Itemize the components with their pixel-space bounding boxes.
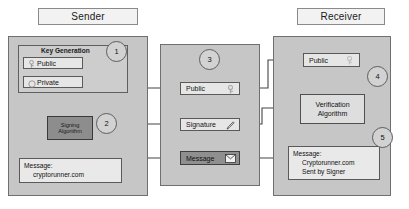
sender-public-key-node[interactable]: Public (23, 57, 83, 69)
transit-public-label: Public (181, 85, 205, 92)
key-icon (227, 85, 234, 94)
transit-public-node[interactable]: Public (180, 82, 240, 95)
key-generation-label: Key Generation (41, 47, 90, 54)
envelope-icon (225, 154, 236, 163)
step-badge-4: 4 (367, 66, 388, 87)
diagram-canvas: Sender Receiver Key Generation Public Pr… (0, 0, 409, 209)
signing-algorithm-node[interactable]: Signing Algorithm (47, 116, 93, 140)
step-badge-5: 5 (372, 127, 393, 148)
sender-private-key-node[interactable]: Private (23, 76, 83, 88)
step-badge-2: 2 (96, 113, 117, 134)
receiver-result-label: Message: (293, 150, 375, 159)
receiver-result-line2: Sent by Signer (293, 168, 375, 177)
sender-title: Sender (38, 8, 138, 25)
signing-algorithm-line2: Algorithm (58, 128, 82, 134)
sender-message-label: Message: (24, 162, 117, 171)
receiver-title: Receiver (297, 8, 385, 25)
transit-message-label: Message (181, 155, 214, 162)
transit-signature-label: Signature (181, 121, 216, 128)
sender-message-value: cryptorunner.com (24, 171, 117, 180)
key-icon (28, 60, 35, 68)
verification-algorithm-line1: Verification (315, 100, 349, 109)
transit-message-node[interactable]: Message (180, 151, 240, 165)
receiver-public-label: Public (304, 57, 328, 64)
key-round-icon (28, 80, 36, 88)
key-icon (346, 56, 353, 65)
verification-algorithm-line2: Algorithm (318, 109, 348, 118)
transit-signature-node[interactable]: Signature (180, 118, 240, 131)
receiver-result-line1: Cryptorunner.com (293, 159, 375, 168)
sender-message-node[interactable]: Message: cryptorunner.com (19, 158, 122, 183)
verification-algorithm-node[interactable]: Verification Algorithm (300, 94, 365, 124)
receiver-public-node[interactable]: Public (303, 53, 360, 67)
step-badge-1: 1 (106, 41, 127, 62)
pen-icon (226, 121, 235, 130)
step-badge-3: 3 (199, 49, 220, 70)
receiver-result-node[interactable]: Message: Cryptorunner.com Sent by Signer (288, 146, 380, 180)
